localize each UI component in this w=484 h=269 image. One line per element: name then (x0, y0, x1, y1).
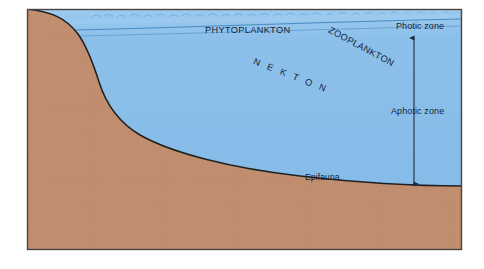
diagram-body (27, 9, 462, 250)
label-phytoplankton: PHYTOPLANKTON (205, 25, 290, 35)
label-photic-zone: Photic zone (396, 21, 444, 31)
label-aphotic-zone: Aphotic zone (391, 106, 444, 116)
label-epifauna: Epifauna (305, 172, 340, 182)
diagram-page: PHYTOPLANKTON ZOOPLANKTON N E K T O N Ep… (0, 0, 484, 269)
figure-container: PHYTOPLANKTON ZOOPLANKTON N E K T O N Ep… (0, 0, 484, 269)
ocean-zones-diagram: PHYTOPLANKTON ZOOPLANKTON N E K T O N Ep… (0, 0, 484, 269)
